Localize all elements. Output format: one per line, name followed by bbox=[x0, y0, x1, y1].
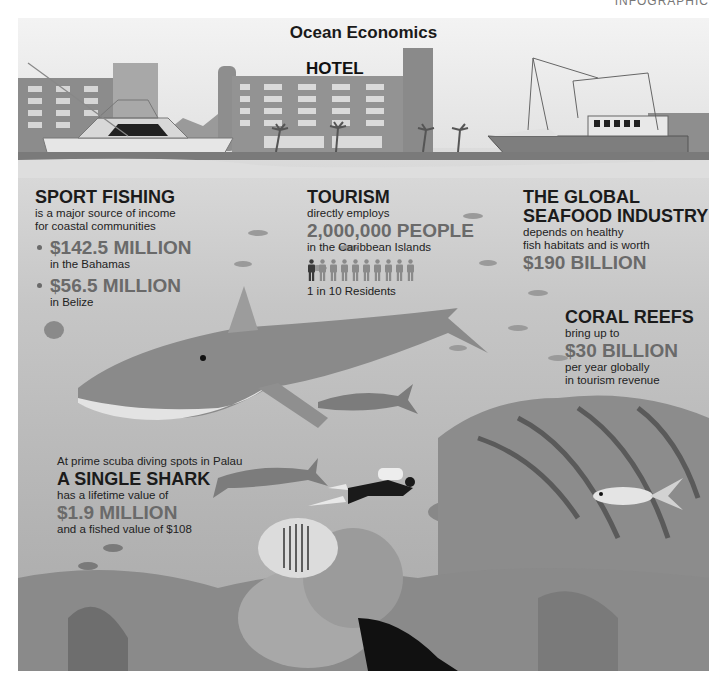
shark-section: At prime scuba diving spots in Palau A S… bbox=[57, 455, 242, 536]
sport-fishing-location: in the Bahamas bbox=[50, 258, 192, 271]
sport-fishing-location: in Belize bbox=[50, 296, 181, 309]
tourism-line: directly employs bbox=[307, 207, 474, 220]
tourism-line: in the Caribbean Islands bbox=[307, 241, 474, 254]
sport-fishing-value: $142.5 MILLION bbox=[50, 237, 192, 258]
person-icon bbox=[395, 259, 404, 281]
seafood-value: $190 BILLION bbox=[523, 252, 708, 273]
seafood-line: depends on healthy bbox=[523, 226, 708, 239]
tourism-value: 2,000,000 PEOPLE bbox=[307, 220, 474, 241]
sport-fishing-value: $56.5 MILLION bbox=[50, 275, 181, 296]
person-icon bbox=[351, 259, 360, 281]
sport-fishing-subtitle: for coastal communities bbox=[35, 220, 192, 233]
person-icon bbox=[329, 259, 338, 281]
sport-fishing-item: $56.5 MILLION in Belize bbox=[35, 275, 192, 309]
tourism-ratio: 1 in 10 Residents bbox=[307, 285, 474, 298]
coral-reefs-section: CORAL REEFS bring up to $30 BILLION per … bbox=[565, 308, 694, 387]
tourism-section: TOURISM directly employs 2,000,000 PEOPL… bbox=[307, 188, 474, 298]
people-icons bbox=[307, 259, 474, 281]
corner-label: INFOGRAPHIC bbox=[615, 0, 709, 8]
person-icon bbox=[318, 259, 327, 281]
sport-fishing-heading: SPORT FISHING bbox=[35, 188, 192, 207]
seafood-line: fish habitats and is worth bbox=[523, 239, 708, 252]
person-icon bbox=[340, 259, 349, 281]
seafood-heading: THE GLOBAL bbox=[523, 188, 708, 207]
infographic-panel: HOTEL bbox=[18, 18, 709, 671]
shark-line: has a lifetime value of bbox=[57, 489, 242, 502]
shark-line: and a fished value of $108 bbox=[57, 523, 242, 536]
shark-intro: At prime scuba diving spots in Palau bbox=[57, 455, 242, 468]
coral-reefs-heading: CORAL REEFS bbox=[565, 308, 694, 327]
coral-reefs-value: $30 BILLION bbox=[565, 340, 694, 361]
person-icon bbox=[373, 259, 382, 281]
coral-reefs-line: in tourism revenue bbox=[565, 374, 694, 387]
bullet-icon bbox=[37, 245, 42, 250]
person-icon bbox=[362, 259, 371, 281]
seafood-heading: SEAFOOD INDUSTRY bbox=[523, 207, 708, 226]
scuba-diver bbox=[308, 468, 415, 506]
shark-value: $1.9 MILLION bbox=[57, 502, 242, 523]
person-icon bbox=[307, 259, 316, 281]
shark-heading: A SINGLE SHARK bbox=[57, 470, 242, 489]
coral-reefs-line: bring up to bbox=[565, 327, 694, 340]
person-icon bbox=[406, 259, 415, 281]
sea-sponge bbox=[44, 321, 64, 339]
tourism-heading: TOURISM bbox=[307, 188, 474, 207]
seafood-section: THE GLOBAL SEAFOOD INDUSTRY depends on h… bbox=[523, 188, 708, 273]
sport-fishing-section: SPORT FISHING is a major source of incom… bbox=[35, 188, 192, 309]
sport-fishing-item: $142.5 MILLION in the Bahamas bbox=[35, 237, 192, 271]
person-icon bbox=[384, 259, 393, 281]
distant-shark bbox=[318, 384, 418, 414]
sport-fishing-subtitle: is a major source of income bbox=[35, 207, 192, 220]
coral-reefs-line: per year globally bbox=[565, 361, 694, 374]
bullet-icon bbox=[37, 283, 42, 288]
